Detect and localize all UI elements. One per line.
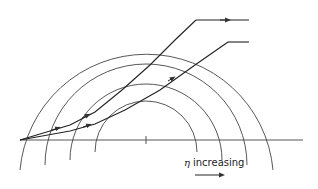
arrow-head-icon <box>168 78 173 81</box>
wavefront-ray-diagram <box>0 0 318 189</box>
increasing-text: increasing <box>193 157 244 168</box>
wavefront-arcs <box>20 54 273 170</box>
eta-increasing-label: ηincreasing <box>184 157 244 168</box>
arc-r1 <box>95 101 197 152</box>
arc-r3 <box>45 64 247 165</box>
eta-symbol: η <box>184 157 190 168</box>
arc-r2 <box>70 84 222 160</box>
arc-r4 <box>20 54 273 170</box>
